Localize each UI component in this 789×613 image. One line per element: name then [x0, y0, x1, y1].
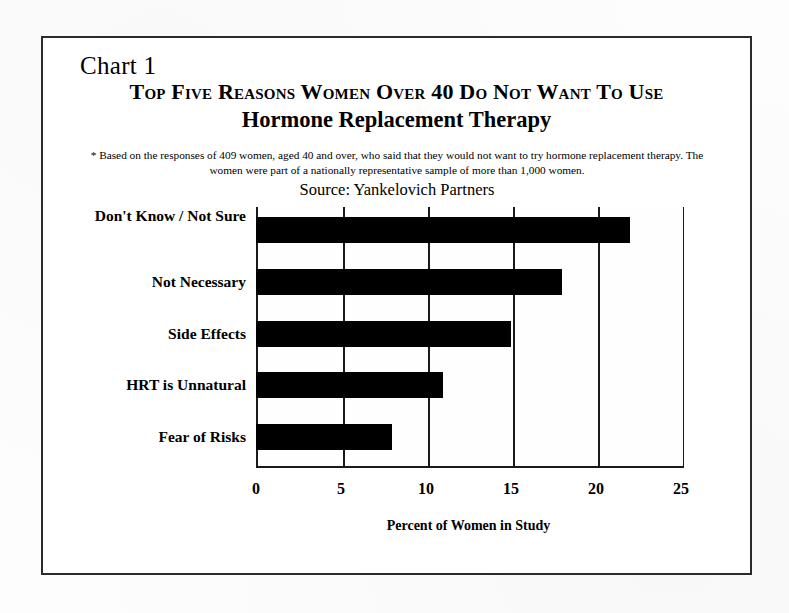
chart-number-label: Chart 1 [80, 52, 156, 80]
chart-footnote: * Based on the responses of 409 women, a… [80, 148, 714, 177]
chart-title-line-2: Hormone Replacement Therapy [55, 107, 738, 133]
chart-source-line: Source: Yankelovich Partners [80, 180, 714, 200]
chart-title-block: Top Five Reasons Women Over 40 Do Not Wa… [55, 79, 738, 133]
chart-title-line-1: Top Five Reasons Women Over 40 Do Not Wa… [55, 79, 738, 105]
